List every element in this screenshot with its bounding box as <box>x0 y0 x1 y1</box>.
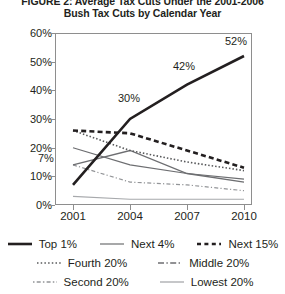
legend-label-middle-20: Middle 20% <box>189 257 249 269</box>
figure-container: FIGURE 2: Average Tax Cuts Under the 200… <box>0 0 285 294</box>
legend-item-second-20[interactable]: Second 20% <box>32 276 129 288</box>
series-line-fourth-20 <box>73 131 244 171</box>
legend-label-fourth-20: Fourth 20% <box>68 257 127 269</box>
legend-item-fourth-20[interactable]: Fourth 20% <box>36 257 127 269</box>
y-tick-label-60: 60% <box>6 28 52 39</box>
legend-label-next-15: Next 15% <box>228 238 278 250</box>
legend-swatch-light-solid-icon <box>159 277 185 287</box>
legend-row-1: Top 1% Next 4% Next 15% <box>0 234 285 253</box>
legend-swatch-thick-dash-icon <box>196 239 222 249</box>
legend: Top 1% Next 4% Next 15% <box>0 234 285 291</box>
legend-swatch-dash-dot-icon <box>157 258 183 268</box>
y-tick-label-30: 30% <box>6 114 52 125</box>
x-tick-label-2001: 2001 <box>43 210 103 222</box>
legend-item-lowest-20[interactable]: Lowest 20% <box>159 276 254 288</box>
y-tick-label-50: 50% <box>6 57 52 68</box>
y-tick-mark-0 <box>49 205 55 206</box>
legend-item-next-4[interactable]: Next 4% <box>99 238 174 250</box>
y-tick-label-40: 40% <box>6 85 52 96</box>
legend-swatch-thin-solid-icon <box>99 239 125 249</box>
data-label-2004-top1: 30% <box>118 92 140 104</box>
series-line-top-1 <box>73 56 244 185</box>
x-tick-label-2010: 2010 <box>214 210 274 222</box>
legend-swatch-thick-solid-icon <box>7 239 33 249</box>
legend-item-middle-20[interactable]: Middle 20% <box>157 257 249 269</box>
x-tick-label-2004: 2004 <box>100 210 160 222</box>
x-tick-label-2007: 2007 <box>157 210 217 222</box>
legend-swatch-fine-dot-icon <box>36 258 62 268</box>
data-label-2001-top1: 7% <box>38 152 54 164</box>
legend-label-next-4: Next 4% <box>131 238 174 250</box>
legend-swatch-light-dashdot-icon <box>32 277 58 287</box>
legend-label-top-1: Top 1% <box>39 238 77 250</box>
y-tick-label-10: 10% <box>6 171 52 182</box>
legend-label-lowest-20: Lowest 20% <box>191 276 254 288</box>
plot-lines <box>55 33 252 205</box>
legend-label-second-20: Second 20% <box>64 276 129 288</box>
legend-row-3: Second 20% Lowest 20% <box>0 272 285 291</box>
legend-item-next-15[interactable]: Next 15% <box>196 238 278 250</box>
legend-item-top-1[interactable]: Top 1% <box>7 238 77 250</box>
data-label-2010-top1: 52% <box>225 35 247 47</box>
legend-row-2: Fourth 20% Middle 20% <box>0 253 285 272</box>
series-line-lowest-20 <box>73 196 244 199</box>
series-line-next-4 <box>73 148 244 180</box>
data-label-2007-top1: 42% <box>173 60 195 72</box>
